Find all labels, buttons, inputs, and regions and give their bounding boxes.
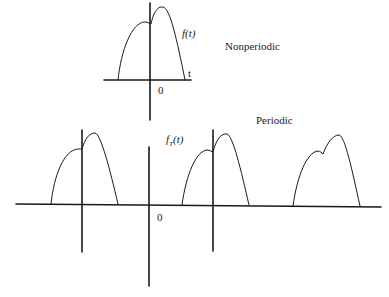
bottom-x-axis [16,204,381,207]
periodic-pulse-3 [293,135,360,206]
diagram-canvas [0,0,389,297]
nonperiodic-caption: Nonperiodic [225,40,280,52]
periodic-caption: Periodic [256,114,293,126]
top-origin-label: 0 [158,84,164,96]
periodic-pulse-1 [51,133,118,204]
bottom-origin-label: 0 [157,211,163,223]
top-pulse-curve [118,7,185,80]
periodic-pulse-2 [182,134,249,205]
top-function-label: f(t) [182,27,195,39]
function-arg: (t) [173,133,183,145]
top-axis-label: t [188,67,191,79]
bottom-function-label: fT(t) [166,133,183,148]
